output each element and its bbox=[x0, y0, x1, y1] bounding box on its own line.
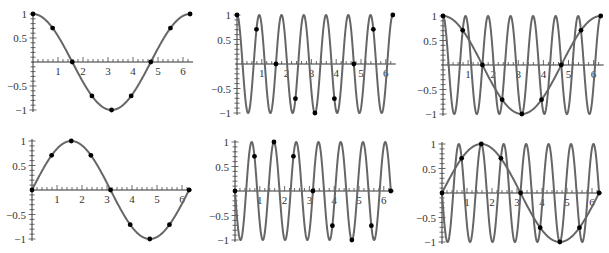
sample-point bbox=[559, 63, 564, 68]
y-tick-label: −1 bbox=[217, 234, 229, 246]
sample-point bbox=[441, 14, 446, 19]
sample-point bbox=[89, 153, 94, 158]
sample-point bbox=[235, 13, 240, 18]
x-tick-label: 4 bbox=[541, 68, 547, 80]
axes: 12345610.5−0.5−1 bbox=[7, 8, 193, 116]
y-tick-label: 0.5 bbox=[13, 32, 27, 44]
x-tick-label: 6 bbox=[381, 194, 387, 206]
sample-point bbox=[479, 142, 484, 147]
y-tick-label: −0.5 bbox=[211, 83, 231, 95]
sample-point bbox=[519, 112, 524, 117]
y-tick-label: 0.5 bbox=[12, 160, 26, 172]
sample-point bbox=[254, 27, 259, 32]
sample-point bbox=[188, 12, 193, 17]
sample-point bbox=[597, 191, 602, 196]
sample-point bbox=[90, 94, 95, 99]
y-tick-label: −1 bbox=[14, 233, 26, 245]
sample-point bbox=[557, 240, 562, 245]
y-tick-label: −0.5 bbox=[7, 80, 27, 92]
sample-point bbox=[459, 156, 464, 161]
y-tick-label: −1 bbox=[15, 104, 27, 116]
sample-point bbox=[371, 27, 376, 32]
plot-panel-bottom-left: 12345610.5−0.5−1 bbox=[6, 135, 192, 245]
sample-point bbox=[577, 225, 582, 230]
sample-point bbox=[109, 108, 114, 113]
x-tick-label: 3 bbox=[105, 65, 111, 77]
sample-point bbox=[388, 189, 393, 194]
y-tick-label: 0.5 bbox=[423, 35, 437, 47]
x-tick-label: 2 bbox=[489, 196, 495, 208]
y-tick-label: 1 bbox=[432, 10, 438, 22]
x-tick-label: 4 bbox=[130, 65, 136, 77]
x-tick-label: 5 bbox=[154, 193, 160, 205]
x-tick-label: 6 bbox=[180, 65, 186, 77]
sample-point bbox=[440, 191, 445, 196]
y-tick-label: −0.5 bbox=[6, 209, 26, 221]
sample-point bbox=[108, 188, 113, 193]
sample-point bbox=[480, 63, 485, 68]
x-tick-label: 2 bbox=[282, 194, 288, 206]
sample-point bbox=[291, 154, 296, 159]
y-tick-label: −0.5 bbox=[416, 212, 436, 224]
sample-point bbox=[148, 60, 153, 65]
x-tick-label: 2 bbox=[80, 65, 86, 77]
sample-point bbox=[187, 188, 192, 193]
x-tick-label: 1 bbox=[54, 193, 60, 205]
y-tick-label: 1 bbox=[21, 135, 27, 147]
x-tick-label: 1 bbox=[55, 65, 61, 77]
x-tick-label: 5 bbox=[155, 65, 161, 77]
x-tick-label: 1 bbox=[259, 67, 265, 79]
x-tick-label: 1 bbox=[465, 68, 471, 80]
y-tick-label: 0.5 bbox=[215, 161, 229, 173]
sample-point bbox=[30, 188, 35, 193]
sample-point bbox=[252, 154, 257, 159]
sample-point bbox=[538, 225, 543, 230]
x-tick-label: 4 bbox=[129, 193, 135, 205]
sample-point bbox=[349, 238, 354, 243]
sample-point bbox=[167, 222, 172, 227]
y-tick-label: −0.5 bbox=[417, 84, 437, 96]
y-tick-label: −1 bbox=[425, 108, 437, 120]
sample-point bbox=[274, 62, 279, 67]
y-tick-label: 0.5 bbox=[422, 163, 436, 175]
sample-point bbox=[70, 60, 75, 65]
aliasing-figure: 12345610.5−0.5−112345610.5−0.5−112345610… bbox=[0, 0, 609, 253]
y-tick-label: 1 bbox=[224, 136, 230, 148]
sample-point bbox=[31, 12, 36, 17]
x-tick-label: 4 bbox=[333, 67, 339, 79]
sample-point bbox=[311, 189, 316, 194]
sample-point bbox=[168, 26, 173, 31]
x-tick-label: 2 bbox=[79, 193, 85, 205]
sample-point bbox=[460, 28, 465, 33]
sample-point bbox=[147, 237, 152, 242]
y-tick-label: 1 bbox=[226, 9, 232, 21]
y-tick-label: −1 bbox=[219, 107, 231, 119]
y-tick-label: −0.5 bbox=[209, 210, 229, 222]
sample-point bbox=[50, 26, 55, 31]
sample-point bbox=[332, 96, 337, 101]
sample-point bbox=[330, 223, 335, 228]
sample-point bbox=[518, 191, 523, 196]
y-tick-label: 1 bbox=[22, 8, 28, 20]
y-tick-label: 1 bbox=[431, 138, 437, 150]
sample-point bbox=[129, 94, 134, 99]
sample-point bbox=[351, 62, 356, 67]
plot-panel-top-right: 12345610.5−0.5−1 bbox=[417, 10, 604, 120]
sample-point bbox=[598, 14, 603, 19]
sample-point bbox=[369, 223, 374, 228]
y-tick-label: −1 bbox=[424, 236, 436, 248]
sample-point bbox=[233, 189, 238, 194]
sample-point bbox=[293, 96, 298, 101]
sample-point bbox=[499, 156, 504, 161]
sample-point bbox=[128, 222, 133, 227]
plot-panel-bottom-middle: 12345610.5−0.5−1 bbox=[209, 136, 394, 246]
plot-panel-top-middle: 12345610.5−0.5−1 bbox=[211, 9, 396, 119]
sample-point bbox=[69, 139, 74, 144]
sample-point bbox=[390, 13, 395, 18]
sample-point bbox=[539, 97, 544, 102]
sample-point bbox=[272, 140, 277, 145]
plot-panel-bottom-right: 12345610.5−0.5−1 bbox=[416, 138, 602, 248]
sample-point bbox=[579, 28, 584, 33]
y-tick-label: 0.5 bbox=[217, 34, 231, 46]
sample-point bbox=[49, 153, 54, 158]
